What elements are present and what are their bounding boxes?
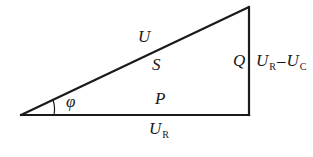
label-angle-phi: φ [66, 93, 75, 110]
label-voltage-u: U [138, 28, 150, 45]
angle-arc [53, 100, 55, 115]
label-ur-main: U [149, 119, 161, 138]
label-voltage-ur: UR [149, 120, 169, 137]
label-ur-sub: R [162, 129, 169, 140]
label-diff-term1-sub: R [269, 61, 276, 72]
label-apparent-power-s: S [152, 56, 161, 73]
label-reactive-power-q: Q [233, 52, 245, 69]
label-active-power-p: P [155, 90, 165, 107]
label-diff-term2-sub: C [300, 61, 307, 72]
hypotenuse-line [21, 7, 249, 115]
power-triangle-diagram: U S P UR Q UR–UC φ [0, 0, 313, 157]
label-diff-term1-main: U [256, 51, 268, 70]
label-diff-operator: – [277, 51, 286, 70]
label-voltage-difference: UR–UC [256, 52, 306, 69]
label-diff-term2-main: U [286, 51, 298, 70]
